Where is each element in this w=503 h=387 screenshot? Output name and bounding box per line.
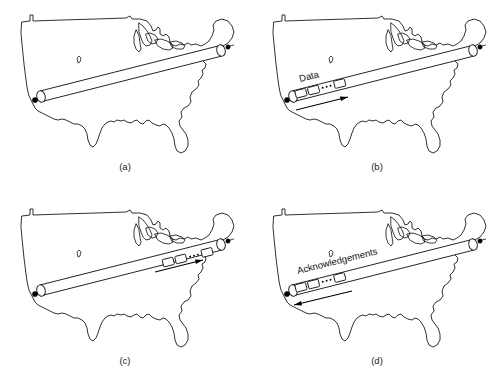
host-dot-west <box>32 97 37 102</box>
panel-b: Data (b) <box>252 0 503 193</box>
panel-d: Acknowledgements (d) <box>252 194 503 387</box>
host-dot-east <box>478 239 482 243</box>
host-dot-east <box>226 239 230 243</box>
panel-c: (c) <box>0 194 251 387</box>
host-dot-east <box>478 45 482 49</box>
panel-caption-b: (b) <box>371 161 383 172</box>
panel-a: (a) <box>0 0 251 193</box>
panel-caption-d: (d) <box>371 355 383 366</box>
host-dot-west <box>284 291 289 296</box>
host-dot-west <box>32 291 37 296</box>
host-dot-west <box>284 97 289 102</box>
panel-caption-c: (c) <box>119 355 130 366</box>
host-dot-east <box>226 45 230 49</box>
figure-root: (a) <box>0 0 503 387</box>
pipe-label-data: Data <box>298 68 321 84</box>
panel-caption-a: (a) <box>119 161 131 172</box>
